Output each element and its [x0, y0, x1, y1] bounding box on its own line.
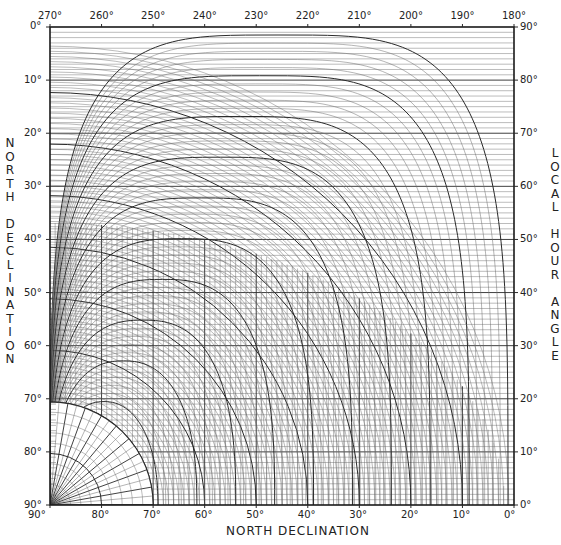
- title-letter: A: [549, 296, 561, 310]
- right-axis-tick-label: 50°: [520, 234, 538, 244]
- left-axis-tick-label: 40°: [24, 234, 42, 244]
- title-letter: N: [549, 309, 561, 323]
- right-axis-tick-label: 10°: [520, 447, 538, 457]
- title-letter: H: [549, 228, 561, 242]
- title-letter: I: [4, 272, 16, 286]
- left-axis-tick-label: 30°: [24, 181, 42, 191]
- top-axis-tick-label: 180°: [502, 11, 526, 21]
- title-letter: E: [4, 232, 16, 246]
- left-axis-tick-label: 80°: [24, 447, 42, 457]
- left-axis-tick-label: 60°: [24, 341, 42, 351]
- title-letter: C: [549, 174, 561, 188]
- right-axis-tick-label: 40°: [520, 288, 538, 298]
- title-letter: L: [549, 147, 561, 161]
- title-letter: D: [4, 218, 16, 232]
- title-letter: H: [4, 191, 16, 205]
- title-letter: N: [4, 137, 16, 151]
- title-letter: N: [4, 286, 16, 300]
- bottom-axis-tick-label: 80°: [92, 510, 110, 520]
- title-letter: O: [549, 161, 561, 175]
- title-letter: R: [4, 164, 16, 178]
- title-letter: [549, 215, 561, 229]
- title-letter: C: [4, 245, 16, 259]
- title-letter: U: [549, 255, 561, 269]
- left-axis-tick-label: 70°: [24, 394, 42, 404]
- left-axis-title: NORTH DECLINATION: [4, 137, 16, 367]
- right-axis-tick-label: 70°: [520, 128, 538, 138]
- bottom-axis-tick-label: 60°: [195, 510, 213, 520]
- left-axis-tick-label: 0°: [30, 21, 41, 31]
- top-axis-tick-label: 240°: [193, 11, 217, 21]
- bottom-axis-tick-label: 40°: [298, 510, 316, 520]
- title-letter: E: [549, 350, 561, 364]
- title-letter: [4, 205, 16, 219]
- title-letter: L: [549, 336, 561, 350]
- title-letter: N: [4, 353, 16, 367]
- top-axis-tick-label: 260°: [90, 11, 114, 21]
- title-letter: L: [4, 259, 16, 273]
- top-axis-tick-label: 250°: [141, 11, 165, 21]
- left-axis-tick-label: 50°: [24, 288, 42, 298]
- title-letter: A: [549, 188, 561, 202]
- top-axis-tick-label: 190°: [450, 11, 474, 21]
- top-axis-tick-label: 230°: [244, 11, 268, 21]
- title-letter: T: [4, 178, 16, 192]
- top-axis-tick-label: 270°: [38, 11, 62, 21]
- right-axis-tick-label: 80°: [520, 75, 538, 85]
- top-axis-tick-label: 220°: [296, 11, 320, 21]
- title-letter: O: [549, 242, 561, 256]
- bottom-axis-tick-label: 0°: [504, 510, 515, 520]
- bottom-axis-title: NORTH DECLINATION: [0, 524, 556, 538]
- title-letter: I: [4, 326, 16, 340]
- right-axis-tick-label: 60°: [520, 181, 538, 191]
- bottom-axis-tick-label: 20°: [401, 510, 419, 520]
- title-letter: O: [4, 340, 16, 354]
- right-axis-tick-label: 90°: [520, 22, 538, 32]
- right-axis-tick-label: 0°: [520, 500, 531, 510]
- title-letter: O: [4, 151, 16, 165]
- left-axis-tick-label: 10°: [24, 75, 42, 85]
- bottom-axis-tick-label: 10°: [452, 510, 470, 520]
- bottom-axis-tick-label: 90°: [28, 510, 46, 520]
- top-axis-tick-label: 210°: [347, 11, 371, 21]
- right-axis-title: LOCAL HOUR ANGLE: [549, 147, 561, 363]
- right-axis-tick-label: 30°: [520, 341, 538, 351]
- title-letter: G: [549, 323, 561, 337]
- title-letter: [549, 282, 561, 296]
- bottom-axis-tick-label: 50°: [246, 510, 264, 520]
- right-axis-tick-label: 20°: [520, 394, 538, 404]
- left-axis-tick-label: 20°: [24, 128, 42, 138]
- top-axis-tick-label: 200°: [399, 11, 423, 21]
- bottom-axis-tick-label: 70°: [143, 510, 161, 520]
- title-letter: A: [4, 299, 16, 313]
- title-letter: R: [549, 269, 561, 283]
- bottom-axis-tick-label: 30°: [349, 510, 367, 520]
- title-letter: L: [549, 201, 561, 215]
- title-letter: T: [4, 313, 16, 327]
